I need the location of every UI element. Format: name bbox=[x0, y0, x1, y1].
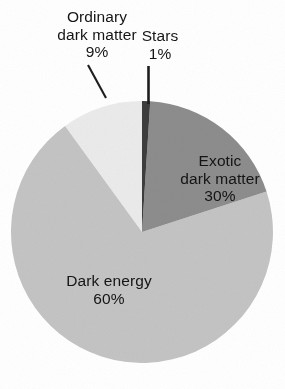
pie-slices-group bbox=[11, 101, 273, 363]
pie-label-exotic-dark-matter: Exotic dark matter 30% bbox=[168, 152, 272, 205]
pie-label-dark-energy: Dark energy 60% bbox=[42, 272, 176, 307]
leader-line-ordinary-dark-matter bbox=[88, 65, 106, 98]
pie-chart-figure: Ordinary dark matter 9% Stars 1% Exotic … bbox=[0, 0, 285, 389]
pie-label-stars: Stars 1% bbox=[124, 27, 196, 62]
